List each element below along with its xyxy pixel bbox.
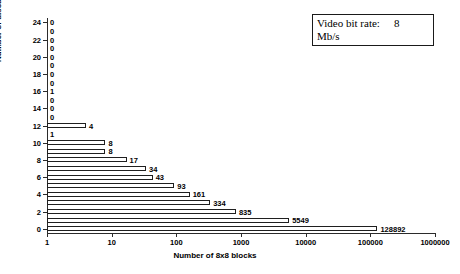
bar-value-label: 0	[50, 62, 54, 69]
bar-value-label: 0	[50, 79, 54, 86]
bar-value-label: 17	[130, 156, 138, 163]
y-axis-tick-label: 18	[33, 70, 41, 77]
bar-value-label: 835	[239, 208, 252, 215]
bar	[47, 218, 289, 223]
plot-area: 0246810121416182022241288925549835334161…	[47, 18, 435, 233]
bar-value-label: 0	[50, 45, 54, 52]
bar-value-label: 8	[108, 139, 112, 146]
y-axis-tick	[43, 91, 47, 92]
y-axis-tick-label: 4	[37, 191, 41, 198]
bar-value-label: 0	[50, 53, 54, 60]
bar-value-label: 93	[177, 182, 185, 189]
bar	[47, 200, 210, 205]
bar-value-label: 161	[193, 191, 206, 198]
bar	[47, 157, 127, 162]
bar	[47, 140, 105, 145]
y-axis-tick	[43, 22, 47, 23]
x-axis-title: Number of 8x8 blocks	[0, 251, 460, 260]
y-axis-tick-label: 22	[33, 36, 41, 43]
x-axis-tick-label: 1000	[233, 239, 250, 247]
y-axis-tick-label: 6	[37, 174, 41, 181]
bar-value-label: 8	[108, 148, 112, 155]
y-axis-tick-label: 2	[37, 208, 41, 215]
bar	[47, 123, 86, 128]
bar-value-label: 0	[50, 19, 54, 26]
x-axis-tick-label: 100000	[358, 239, 383, 247]
bar-value-label: 334	[213, 199, 226, 206]
bar-value-label: 0	[50, 105, 54, 112]
bar	[47, 192, 190, 197]
y-axis-tick-label: 24	[33, 19, 41, 26]
bar-value-label: 0	[50, 27, 54, 34]
y-axis-tick-label: 12	[33, 122, 41, 129]
bar-value-label: 34	[149, 165, 157, 172]
y-axis-tick-label: 8	[37, 156, 41, 163]
bar-value-label: 0	[50, 36, 54, 43]
x-axis-tick-label: 10	[107, 239, 115, 247]
bar-value-label: 0	[50, 113, 54, 120]
y-axis-title: Number of discarded VLCs per block	[0, 0, 3, 62]
x-axis-tick-label: 10000	[295, 239, 316, 247]
y-axis-tick-label: 10	[33, 139, 41, 146]
bar	[47, 175, 153, 180]
x-axis-tick-label: 100	[170, 239, 183, 247]
bar	[47, 166, 146, 171]
x-axis-tick-label: 1000000	[420, 239, 449, 247]
x-axis-tick	[435, 233, 436, 237]
chart-figure: Video bit rate:8 Mb/s Number of discarde…	[0, 0, 460, 274]
bar-value-label: 0	[50, 70, 54, 77]
bar	[47, 149, 105, 154]
y-axis-tick	[43, 40, 47, 41]
y-axis-tick-label: 14	[33, 105, 41, 112]
x-axis-tick	[47, 233, 48, 237]
bar-value-label: 0	[50, 96, 54, 103]
y-axis-tick	[43, 57, 47, 58]
bar-value-label: 5549	[292, 217, 309, 224]
y-axis-tick-label: 20	[33, 53, 41, 60]
bar-value-label: 43	[156, 174, 164, 181]
x-axis-tick	[112, 233, 113, 237]
bar-value-label: 1	[50, 88, 54, 95]
x-axis-tick	[306, 233, 307, 237]
bar-value-label: 4	[89, 122, 93, 129]
bar	[47, 183, 174, 188]
bar-value-label: 1	[50, 131, 54, 138]
x-axis-tick	[370, 233, 371, 237]
bar	[47, 226, 377, 231]
y-axis-tick	[43, 74, 47, 75]
bar-value-label: 128892	[380, 225, 405, 232]
bar	[47, 209, 236, 214]
y-axis-tick-label: 16	[33, 88, 41, 95]
y-axis-tick-label: 0	[37, 225, 41, 232]
x-axis-tick	[241, 233, 242, 237]
y-axis-tick	[43, 108, 47, 109]
x-axis-tick	[176, 233, 177, 237]
x-axis-tick-label: 1	[45, 239, 49, 247]
